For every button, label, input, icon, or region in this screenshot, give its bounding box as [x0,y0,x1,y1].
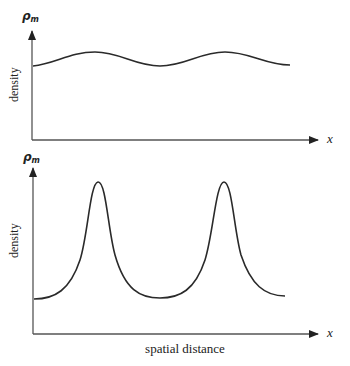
top-y-label: density [7,67,21,102]
bottom-density-curve [34,182,285,299]
bottom-rho-symbol: ρm [23,150,40,165]
bottom-y-label: density [7,223,21,258]
top-panel: ρm x density [7,9,333,146]
bottom-x-symbol: x [326,325,333,340]
top-x-symbol: x [326,131,333,146]
bottom-panel: ρm x density spatial distance [7,150,333,356]
top-density-curve [33,52,290,66]
density-wave-diagram: ρm x density ρm x density spatial distan… [0,0,350,366]
top-rho-symbol: ρm [22,9,39,24]
bottom-x-label: spatial distance [145,341,225,356]
